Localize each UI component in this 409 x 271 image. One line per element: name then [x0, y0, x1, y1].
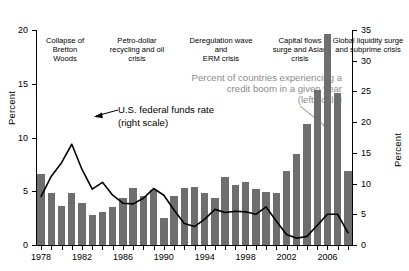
x-tick-2005 [317, 246, 318, 250]
y-tick-right-25 [353, 91, 357, 92]
x-tick-1990 [164, 246, 165, 250]
y-axis-title-right: Percent [392, 133, 403, 167]
y-label-right-0: 0 [361, 241, 383, 250]
x-tick-1980 [62, 246, 63, 250]
y-label-left-15: 15 [6, 80, 28, 89]
x-label-1978: 1978 [31, 253, 51, 262]
x-tick-1985 [113, 246, 114, 250]
y-label-right-10: 10 [361, 180, 383, 189]
x-tick-1982 [82, 246, 83, 250]
y-label-right-5: 5 [361, 210, 383, 219]
y-tick-left-5 [32, 191, 36, 192]
x-tick-1997 [235, 246, 236, 250]
x-tick-1983 [92, 246, 93, 250]
y-tick-left-20 [32, 30, 36, 31]
x-tick-2007 [338, 246, 339, 250]
x-label-1998: 1998 [236, 253, 256, 262]
x-tick-2008 [348, 246, 349, 250]
x-tick-2002 [287, 246, 288, 250]
x-tick-1989 [154, 246, 155, 250]
y-tick-left-15 [32, 84, 36, 85]
y-label-left-5: 5 [6, 187, 28, 196]
y-tick-left-10 [32, 138, 36, 139]
x-label-1990: 1990 [154, 253, 174, 262]
x-tick-2006 [327, 246, 328, 250]
y-label-right-25: 25 [361, 87, 383, 96]
x-tick-1988 [143, 246, 144, 250]
y-label-left-10: 10 [6, 134, 28, 143]
y-tick-right-35 [353, 30, 357, 31]
y-tick-right-5 [353, 214, 357, 215]
x-tick-1999 [256, 246, 257, 250]
x-tick-1979 [51, 246, 52, 250]
x-label-2006: 2006 [317, 253, 337, 262]
plot-area: 05101520 05101520253035 1978198219861990… [36, 30, 353, 246]
x-tick-2001 [276, 246, 277, 250]
x-tick-1981 [72, 246, 73, 250]
chart-figure: Percent Percent Collapse of Bretton Wood… [0, 0, 409, 271]
x-tick-1998 [246, 246, 247, 250]
y-tick-right-10 [353, 184, 357, 185]
y-tick-right-15 [353, 153, 357, 154]
y-label-right-20: 20 [361, 118, 383, 127]
x-tick-1996 [225, 246, 226, 250]
x-tick-1986 [123, 246, 124, 250]
x-label-1986: 1986 [113, 253, 133, 262]
y-label-left-20: 20 [6, 26, 28, 35]
x-tick-1978 [41, 246, 42, 250]
y-tick-left-0 [32, 245, 36, 246]
x-tick-1995 [215, 246, 216, 250]
y-label-right-30: 30 [361, 57, 383, 66]
y-tick-right-0 [353, 245, 357, 246]
y-label-right-35: 35 [361, 26, 383, 35]
y-label-right-15: 15 [361, 149, 383, 158]
x-label-1994: 1994 [195, 253, 215, 262]
x-tick-1993 [195, 246, 196, 250]
y-tick-right-30 [353, 61, 357, 62]
y-axis-title-left: Percent [6, 91, 17, 125]
x-tick-2000 [266, 246, 267, 250]
x-tick-2003 [297, 246, 298, 250]
x-tick-1994 [205, 246, 206, 250]
x-tick-1984 [102, 246, 103, 250]
y-tick-right-20 [353, 122, 357, 123]
y-label-left-0: 0 [6, 241, 28, 250]
x-tick-1991 [174, 246, 175, 250]
x-tick-1992 [184, 246, 185, 250]
line-series-fed-funds-rate [36, 30, 353, 246]
x-tick-1987 [133, 246, 134, 250]
x-tick-2004 [307, 246, 308, 250]
x-label-2002: 2002 [277, 253, 297, 262]
x-label-1982: 1982 [72, 253, 92, 262]
